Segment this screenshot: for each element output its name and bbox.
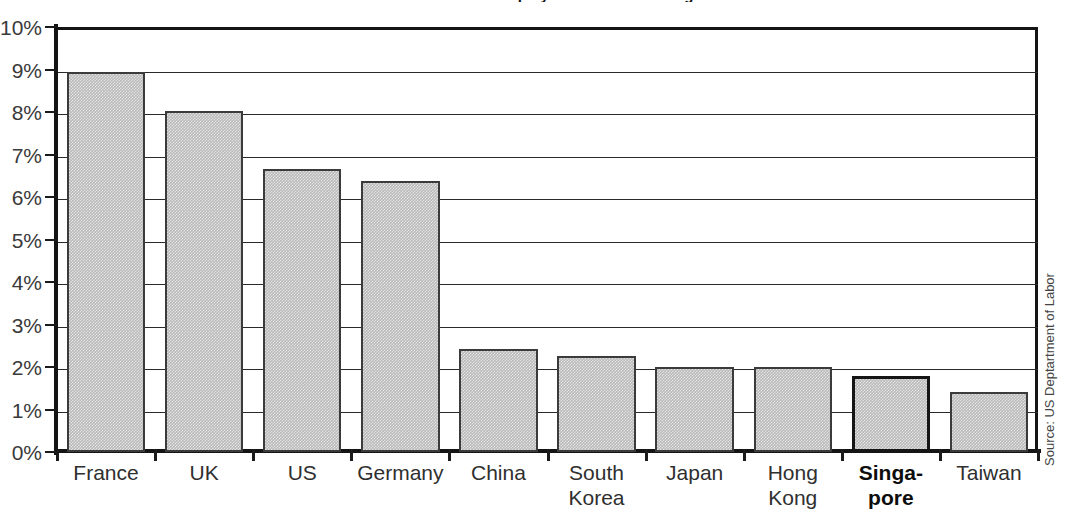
y-axis-tick-label: 6% xyxy=(12,187,42,208)
y-axis-tick-mark xyxy=(45,196,57,198)
bar xyxy=(754,367,832,452)
bar xyxy=(263,169,341,452)
y-axis-tick-mark xyxy=(45,69,57,71)
source-note: Source: US Deptartment of Labor xyxy=(1038,276,1062,468)
y-axis-tick-label: 2% xyxy=(12,357,42,378)
y-axis-tick-mark xyxy=(45,324,57,326)
y-axis-tick-label: 0% xyxy=(12,442,42,463)
y-axis-tick-label: 5% xyxy=(12,229,42,250)
y-axis-tick-label: 8% xyxy=(12,102,42,123)
y-axis-tick-mark xyxy=(45,239,57,241)
x-axis-category-label: Taiwan xyxy=(940,460,1038,485)
y-axis-tick-mark xyxy=(45,154,57,156)
x-axis-category-label: France xyxy=(57,460,155,485)
bar-chart: Percent of Workforce Employed in Manufac… xyxy=(0,0,1065,518)
y-axis-tick-mark xyxy=(45,26,57,28)
x-axis-category-label: Germany xyxy=(351,460,449,485)
y-axis-tick-labels: 10%9%8%7%6%5%4%3%2%1%0% xyxy=(0,0,52,518)
bar xyxy=(165,111,243,452)
y-axis-tick-label: 1% xyxy=(12,399,42,420)
bar xyxy=(361,181,439,452)
x-axis-category-label: Singa- pore xyxy=(842,460,940,510)
bar xyxy=(852,376,930,453)
y-axis-tick-label: 4% xyxy=(12,272,42,293)
y-axis-tick-mark xyxy=(45,111,57,113)
x-axis-category-labels: FranceUKUSGermanyChinaSouth KoreaJapanHo… xyxy=(57,460,1038,516)
y-axis-tick-mark xyxy=(45,281,57,283)
x-axis-category-label: UK xyxy=(155,460,253,485)
y-axis-tick-label: 3% xyxy=(12,314,42,335)
chart-title-strip: Percent of Workforce Employed in Manufac… xyxy=(0,0,1065,2)
x-axis-category-label: Hong Kong xyxy=(744,460,842,510)
bar-series xyxy=(57,27,1038,452)
bar xyxy=(557,356,635,452)
bar xyxy=(459,349,537,452)
x-axis-category-label: Japan xyxy=(646,460,744,485)
y-axis-tick-mark xyxy=(45,409,57,411)
y-axis-tick-label: 9% xyxy=(12,59,42,80)
bar xyxy=(950,392,1028,452)
x-axis-category-label: US xyxy=(253,460,351,485)
y-axis-tick-mark xyxy=(45,366,57,368)
y-axis-tick-label: 7% xyxy=(12,144,42,165)
x-axis-category-label: China xyxy=(449,460,547,485)
bar xyxy=(655,367,733,452)
bar xyxy=(67,72,145,452)
x-axis-category-label: South Korea xyxy=(548,460,646,510)
y-axis-tick-label: 10% xyxy=(0,17,42,38)
chart-title: Percent of Workforce Employed in Manufac… xyxy=(0,0,1030,2)
